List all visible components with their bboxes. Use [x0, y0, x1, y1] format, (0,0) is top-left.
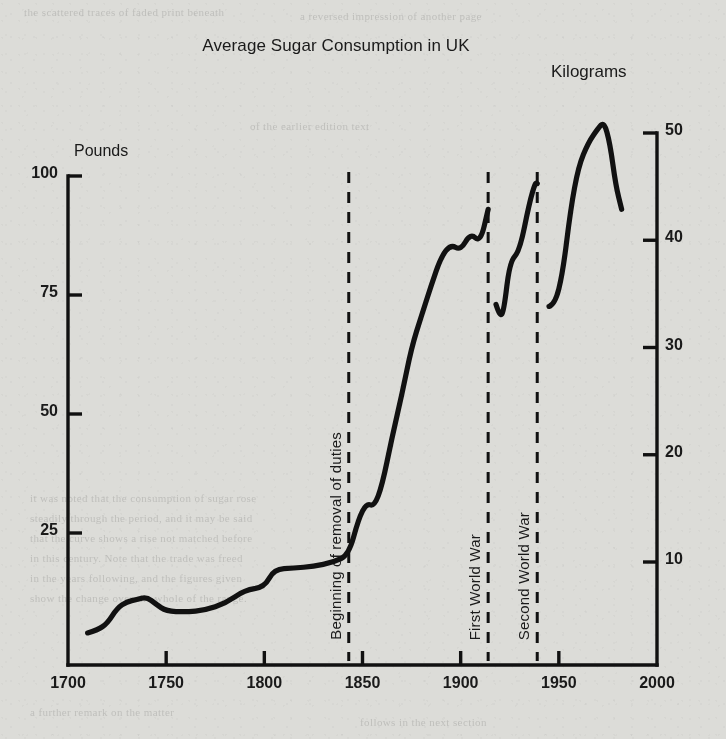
event-dashed-lines	[349, 172, 537, 661]
plot-area	[0, 0, 726, 739]
sugar-consumption-chart: Average Sugar Consumption in UK Pounds K…	[0, 0, 726, 739]
data-series-lines	[88, 124, 622, 633]
